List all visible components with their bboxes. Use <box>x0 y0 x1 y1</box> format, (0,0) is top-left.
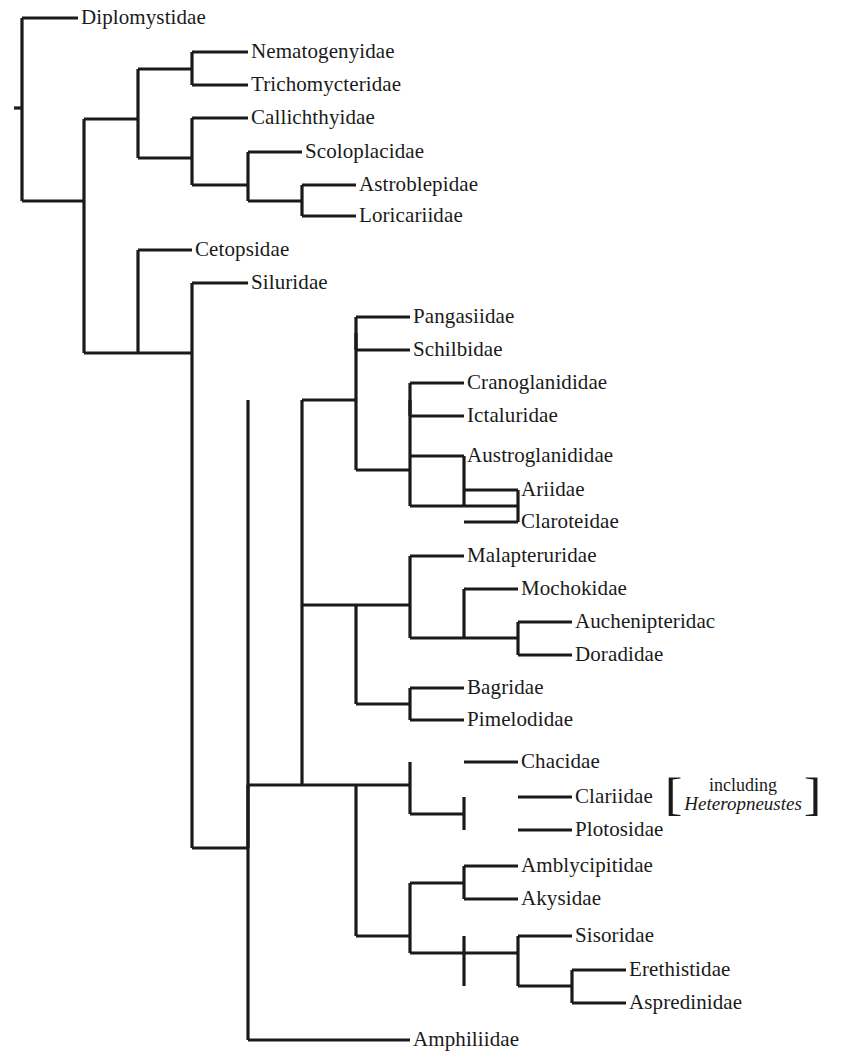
taxon-label-clariidae: Clariidae <box>575 786 653 807</box>
taxon-label-schilbidae: Schilbidae <box>413 339 503 360</box>
taxon-label-sisoridae: Sisoridae <box>575 925 654 946</box>
heteropneustes-annotation: [ including Heteropneustes ] <box>666 776 820 814</box>
taxon-label-trichomycteridae: Trichomycteridae <box>251 74 401 95</box>
taxon-label-amblycipitidae: Amblycipitidae <box>521 855 653 876</box>
taxon-label-akysidae: Akysidae <box>521 888 601 909</box>
taxon-label-astroblepidae: Astroblepidae <box>359 174 478 195</box>
annotation-line-genus: Heteropneustes <box>684 794 802 813</box>
taxon-label-cetopsidae: Cetopsidae <box>195 239 289 260</box>
annotation-line-including: including <box>709 776 777 794</box>
taxon-label-pangasiidae: Pangasiidae <box>413 306 514 327</box>
taxon-label-chacidae: Chacidae <box>521 751 600 772</box>
cladogram-branches <box>0 0 856 1064</box>
taxon-label-auchenipteridae: Auchenipteridac <box>575 611 715 632</box>
taxon-label-ariidae: Ariidae <box>521 479 585 500</box>
taxon-label-diplomystidae: Diplomystidae <box>81 7 206 28</box>
taxon-label-callichthyidae: Callichthyidae <box>251 107 375 128</box>
bracket-close-glyph: ] <box>804 776 822 814</box>
taxon-label-siluridae: Siluridae <box>251 272 328 293</box>
bracket-open-glyph: [ <box>665 776 683 814</box>
taxon-label-claroteidae: Claroteidae <box>521 511 619 532</box>
taxon-label-bagridae: Bagridae <box>467 677 544 698</box>
taxon-label-nematogenyidae: Nematogenyidae <box>251 41 395 62</box>
taxon-label-cranoglanididae: Cranoglanididae <box>467 372 607 393</box>
taxon-label-mochokidae: Mochokidae <box>521 578 627 599</box>
taxon-label-malapteruridae: Malapteruridae <box>467 545 597 566</box>
taxon-label-loricariidae: Loricariidae <box>359 205 463 226</box>
taxon-label-aspredinidae: Aspredinidae <box>629 992 742 1013</box>
annotation-text-block: including Heteropneustes <box>681 776 805 814</box>
taxon-label-erethistidae: Erethistidae <box>629 959 731 980</box>
taxon-label-scoloplacidae: Scoloplacidae <box>305 141 424 162</box>
taxon-label-amphiliidae: Amphiliidae <box>413 1029 519 1050</box>
taxon-label-austroglanididae: Austroglanididae <box>467 445 613 466</box>
taxon-label-doradidae: Doradidae <box>575 644 663 665</box>
taxon-label-plotosidae: Plotosidae <box>575 819 664 840</box>
cladogram-figure: DiplomystidaeNematogenyidaeTrichomycteri… <box>0 0 856 1064</box>
taxon-label-pimelodidae: Pimelodidae <box>467 709 573 730</box>
taxon-label-ictaluridae: Ictaluridae <box>467 405 558 426</box>
